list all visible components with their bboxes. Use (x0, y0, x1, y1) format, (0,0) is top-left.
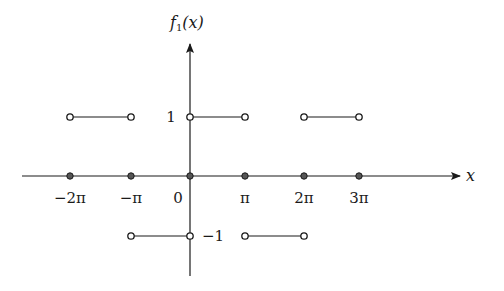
open-dot (128, 114, 134, 120)
y-tick-label-1: 1 (166, 108, 176, 126)
filled-dot (356, 173, 362, 179)
function-graph: f1(x) x −2π −π 0 π 2π 3π 1 −1 (0, 0, 504, 291)
filled-dot (301, 173, 307, 179)
open-dot (242, 233, 248, 239)
open-dot (356, 114, 362, 120)
open-dot (187, 233, 193, 239)
filled-dot (67, 173, 73, 179)
y-tick-label-neg-1: −1 (202, 227, 224, 245)
tick-label-neg-pi: −π (120, 189, 143, 207)
open-dot (242, 114, 248, 120)
open-dot (301, 114, 307, 120)
open-dot (128, 233, 134, 239)
x-axis-label: x (466, 166, 475, 185)
y-axis-label: f1(x) (169, 13, 204, 33)
filled-dot (187, 173, 193, 179)
open-dot (301, 233, 307, 239)
filled-dot (128, 173, 134, 179)
open-dot (187, 114, 193, 120)
open-dot (67, 114, 73, 120)
tick-label-2pi: 2π (294, 189, 314, 207)
x-tick-labels: −2π −π 0 π 2π 3π (54, 189, 369, 207)
tick-label-3pi: 3π (349, 189, 369, 207)
filled-dot (242, 173, 248, 179)
tick-label-neg-2pi: −2π (54, 189, 86, 207)
tick-label-zero: 0 (173, 189, 183, 207)
tick-label-pi: π (240, 189, 250, 207)
